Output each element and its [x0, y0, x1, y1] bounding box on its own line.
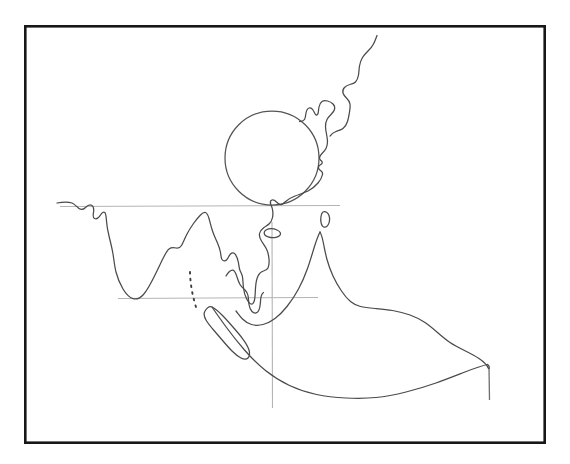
border-frame — [25, 26, 544, 442]
vertical-line — [272, 222, 273, 408]
sketch-map-figure: hand-drawn-sketch-map South and Southeas… — [0, 0, 570, 464]
map-canvas — [0, 0, 570, 464]
right-edge-tick — [489, 368, 490, 400]
